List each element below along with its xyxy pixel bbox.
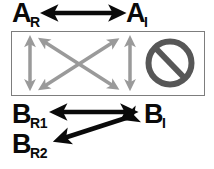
no-entry-sign bbox=[149, 42, 192, 85]
label-b-r2-sub: R2 bbox=[30, 145, 47, 161]
label-b-r1-base: B bbox=[12, 99, 31, 129]
label-a-r: AR bbox=[12, 0, 41, 27]
figure-canvas: AR AI BR1 BI BR2 bbox=[0, 0, 214, 169]
label-b-r1: BR1 bbox=[12, 101, 48, 128]
label-a-r-sub: R bbox=[30, 14, 40, 30]
label-a-i-sub: I bbox=[144, 14, 148, 30]
label-b-i-sub: I bbox=[162, 115, 166, 131]
label-b-i: BI bbox=[144, 101, 167, 128]
label-b-r2: BR2 bbox=[12, 131, 48, 158]
label-b-r1-sub: R1 bbox=[30, 115, 47, 131]
label-a-r-base: A bbox=[12, 0, 31, 28]
label-a-i: AI bbox=[126, 0, 149, 27]
label-b-r2-base: B bbox=[12, 129, 31, 159]
label-a-i-base: A bbox=[126, 0, 145, 28]
arrow-bi-br2 bbox=[61, 117, 129, 139]
label-b-i-base: B bbox=[144, 99, 163, 129]
